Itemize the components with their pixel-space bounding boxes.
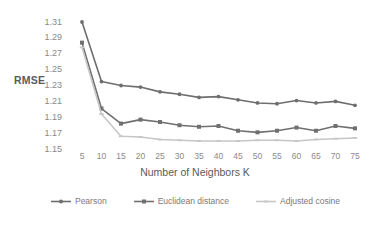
legend-label: Euclidean distance bbox=[158, 196, 229, 206]
data-point bbox=[333, 138, 337, 140]
x-axis-title: Number of Neighbors K bbox=[0, 166, 390, 178]
series-line bbox=[82, 43, 355, 133]
data-point bbox=[217, 95, 221, 99]
data-point bbox=[353, 103, 357, 107]
data-point bbox=[80, 41, 84, 45]
legend-item-euclidean-distance[interactable]: Euclidean distance bbox=[133, 196, 229, 206]
series-euclidean-distance bbox=[80, 41, 357, 135]
data-point bbox=[353, 137, 357, 139]
legend-marker-icon bbox=[133, 197, 155, 206]
series-pearson bbox=[80, 20, 357, 107]
plot-area bbox=[0, 0, 390, 229]
data-point bbox=[197, 96, 201, 100]
data-point bbox=[275, 139, 279, 141]
data-point bbox=[295, 99, 299, 103]
data-point bbox=[178, 123, 182, 127]
data-point bbox=[256, 101, 260, 105]
legend-marker-icon bbox=[50, 197, 72, 206]
data-point bbox=[334, 99, 338, 103]
legend-item-pearson[interactable]: Pearson bbox=[50, 196, 107, 206]
data-point bbox=[158, 139, 162, 141]
data-point bbox=[294, 140, 298, 142]
data-point bbox=[138, 136, 142, 138]
data-point bbox=[353, 126, 357, 130]
data-point bbox=[334, 124, 338, 128]
chart-legend: PearsonEuclidean distanceAdjusted cosine bbox=[0, 196, 390, 206]
data-point bbox=[139, 85, 143, 89]
data-point bbox=[158, 120, 162, 124]
chart-container: RMSE 1.311.291.271.251.231.211.191.171.1… bbox=[0, 0, 390, 229]
data-point bbox=[314, 139, 318, 141]
data-point bbox=[197, 125, 201, 129]
data-point bbox=[216, 140, 220, 142]
data-point bbox=[256, 130, 260, 134]
data-point bbox=[236, 129, 240, 133]
data-point bbox=[178, 92, 182, 96]
data-point bbox=[100, 80, 104, 84]
data-point bbox=[275, 102, 279, 106]
data-point bbox=[236, 98, 240, 102]
legend-marker-icon bbox=[255, 197, 277, 206]
data-point bbox=[255, 139, 259, 141]
data-point bbox=[158, 90, 162, 94]
legend-item-adjusted-cosine[interactable]: Adjusted cosine bbox=[255, 196, 340, 206]
data-point bbox=[314, 129, 318, 133]
data-point bbox=[80, 20, 84, 24]
data-point bbox=[99, 113, 103, 115]
data-point bbox=[119, 122, 123, 126]
data-point bbox=[80, 47, 84, 49]
data-point bbox=[177, 139, 181, 141]
legend-label: Pearson bbox=[75, 196, 107, 206]
data-point bbox=[139, 118, 143, 122]
data-point bbox=[295, 126, 299, 130]
data-point bbox=[236, 140, 240, 142]
data-point bbox=[119, 84, 123, 88]
data-point bbox=[197, 140, 201, 142]
data-point bbox=[275, 129, 279, 133]
data-point bbox=[217, 124, 221, 128]
series-line bbox=[82, 22, 355, 105]
data-point bbox=[314, 101, 318, 105]
legend-label: Adjusted cosine bbox=[280, 196, 340, 206]
data-point bbox=[119, 135, 123, 137]
